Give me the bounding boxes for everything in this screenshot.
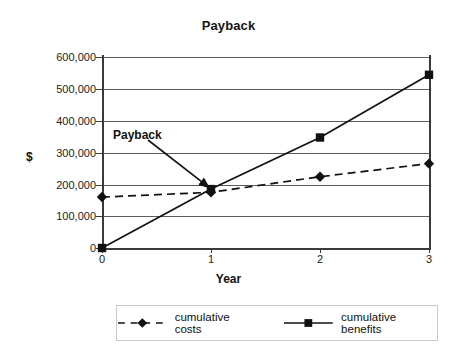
series-line (102, 75, 429, 248)
y-tick-label-500000: 500,000 (26, 83, 96, 95)
payback-annotation-label: Payback (113, 128, 162, 142)
data-point-marker (316, 133, 324, 141)
legend-item-cumulative-benefits[interactable]: cumulative benefits (283, 311, 437, 335)
x-tick-label-0: 0 (87, 253, 117, 265)
x-tick-label-3: 3 (414, 253, 444, 265)
y-tick-label-600000: 600,000 (26, 51, 96, 63)
gridline-200000 (102, 185, 430, 186)
x-axis-title: Year (0, 272, 457, 286)
gridline-300000 (102, 153, 430, 154)
gridline-600000 (102, 57, 430, 58)
y-axis-labels: 600,000 500,000 400,000 300,000 200,000 … (24, 0, 96, 363)
series-cumulative-costs (97, 158, 434, 202)
legend-marker-square-solid (283, 317, 334, 329)
gridline-100000 (102, 216, 430, 217)
y-axis-title: $ (26, 150, 33, 164)
plot-right-border (429, 55, 431, 250)
y-tick-label-200000: 200,000 (26, 179, 96, 191)
x-tick-label-1: 1 (196, 253, 226, 265)
y-tick-label-0: 0 (26, 242, 96, 254)
payback-annotation-arrow (148, 140, 208, 187)
gridline-500000 (102, 89, 430, 90)
legend-label-cumulative-costs: cumulative costs (175, 311, 258, 335)
y-tick-label-300000: 300,000 (26, 147, 96, 159)
payback-chart: Payback 600,000 500,000 400,000 300,000 … (0, 0, 457, 363)
series-line (102, 164, 429, 198)
y-axis-line (102, 55, 104, 250)
legend-item-cumulative-costs[interactable]: cumulative costs (117, 311, 257, 335)
legend-marker-diamond-dashed (117, 317, 168, 329)
y-tick-label-100000: 100,000 (26, 210, 96, 222)
y-tick-label-400000: 400,000 (26, 115, 96, 127)
data-point-marker (207, 185, 215, 193)
gridline-400000 (102, 121, 430, 122)
x-axis-line (102, 248, 430, 250)
legend-label-cumulative-benefits: cumulative benefits (341, 311, 437, 335)
x-tick-label-2: 2 (305, 253, 335, 265)
data-point-marker (206, 187, 216, 197)
chart-legend: cumulative costs cumulative benefits (116, 305, 438, 341)
data-point-marker (315, 171, 325, 181)
series-cumulative-benefits (98, 71, 433, 253)
